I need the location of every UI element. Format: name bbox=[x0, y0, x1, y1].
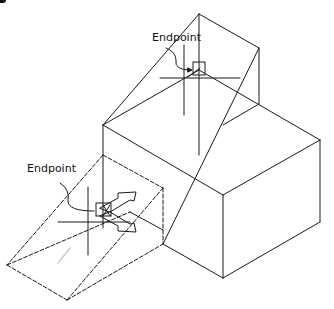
upper-snap-crosshair bbox=[160, 45, 240, 115]
dashed-preview-wedge bbox=[7, 155, 163, 300]
upper-wedge bbox=[103, 14, 320, 244]
upper-endpoint-label: Endpoint bbox=[152, 32, 201, 43]
lower-box bbox=[103, 104, 320, 278]
isometric-cad-diagram: Endpoint Endpoint bbox=[0, 0, 334, 309]
drawing bbox=[0, 0, 334, 309]
lower-endpoint-label: Endpoint bbox=[27, 163, 76, 174]
smudge-mark bbox=[58, 248, 70, 263]
